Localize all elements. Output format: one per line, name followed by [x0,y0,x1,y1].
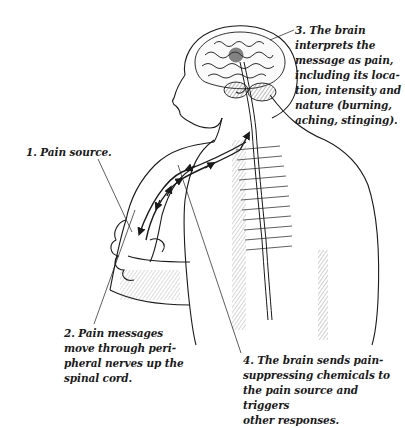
arm-shading [120,270,180,300]
back-shading-right [318,250,328,340]
label-brain-interprets: 3. The brain interprets the message as p… [295,23,401,128]
brain [195,32,285,101]
label-pain-source: 1. Pain source. [26,145,112,160]
leader-line-4 [178,165,241,353]
leader-line-2 [94,210,135,324]
nerve-pathway-arrows [140,135,248,240]
back-shading [232,140,246,330]
leader-line-1 [98,159,132,232]
label-brain-responds: 4. The brain sends pain- suppressing che… [243,353,405,428]
leader-line-3 [270,30,294,40]
label-pain-messages: 2. Pain messages move through peri- pher… [64,326,184,386]
torso-outline [184,95,379,345]
